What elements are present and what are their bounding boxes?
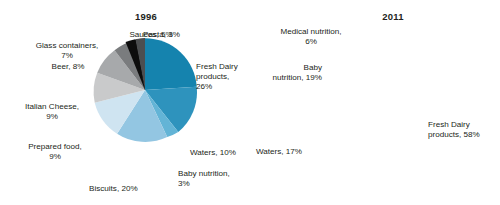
- panel-2011: 2011 Medical nutrition, 6% Baby nutritio…: [268, 0, 500, 205]
- label-glass-containers-1996: Glass containers, 7%: [26, 41, 108, 61]
- panel-1996: 1996: [0, 0, 268, 205]
- label-prepared-food-1996: Prepared food, 9%: [14, 142, 96, 162]
- label-fresh-dairy-2011: Fresh Dairy products, 58%: [428, 120, 500, 140]
- label-beer-1996: Beer, 8%: [34, 62, 102, 72]
- label-waters-1996: Waters, 10%: [190, 148, 264, 158]
- label-pasta-1996: Pasta, 3%: [143, 30, 203, 40]
- label-baby-nutrition-1996: Baby nutrition, 3%: [178, 169, 262, 189]
- label-biscuits-1996: Biscuits, 20%: [89, 184, 169, 194]
- label-baby-nutrition-2011: Baby nutrition, 19%: [240, 63, 322, 83]
- label-medical-nutrition-2011: Medical nutrition, 6%: [256, 27, 366, 47]
- chart-title-1996: 1996: [0, 11, 268, 22]
- label-waters-2011: Waters, 17%: [256, 147, 332, 157]
- label-italian-cheese-1996: Italian Cheese, 9%: [12, 102, 92, 122]
- pie-charts-figure: 1996: [0, 0, 500, 205]
- chart-title-2011: 2011: [268, 11, 500, 22]
- pie-slice-fresh-dairy-1996: [145, 38, 197, 90]
